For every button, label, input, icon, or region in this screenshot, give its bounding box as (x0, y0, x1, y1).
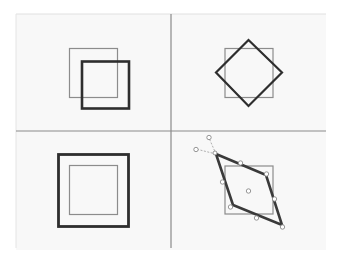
edge-handle-top[interactable] (238, 161, 242, 165)
corner-handle-top-right[interactable] (264, 172, 268, 176)
corner-handle-top-left[interactable] (213, 151, 217, 155)
edge-handle-left[interactable] (220, 180, 224, 184)
rotate-handle[interactable] (194, 147, 198, 151)
rotate-handle[interactable] (207, 135, 211, 139)
corner-handle-bottom-left[interactable] (228, 205, 232, 209)
edge-handle-bottom[interactable] (254, 216, 258, 220)
center-handle[interactable] (246, 189, 250, 193)
transform-diagram (0, 0, 340, 255)
corner-handle-bottom-right[interactable] (280, 225, 284, 229)
edge-handle-right[interactable] (272, 197, 276, 201)
